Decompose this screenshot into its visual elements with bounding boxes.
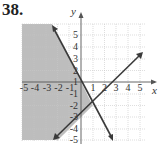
x-axis-label: x bbox=[151, 84, 157, 96]
svg-text:-2: -2 bbox=[54, 82, 62, 93]
y-axis-label: y bbox=[70, 5, 76, 17]
svg-text:1: 1 bbox=[73, 76, 78, 87]
svg-text:-1: -1 bbox=[70, 88, 78, 99]
svg-text:-3: -3 bbox=[43, 82, 51, 93]
y-axis-arrow-icon bbox=[79, 12, 84, 18]
graph: x y -5 -4 -3 -2 -1 1 2 3 4 5 5 4 3 2 1 -… bbox=[0, 0, 160, 148]
svg-text:4: 4 bbox=[73, 41, 78, 52]
svg-text:1: 1 bbox=[91, 82, 96, 93]
svg-text:3: 3 bbox=[114, 82, 119, 93]
svg-text:-4: -4 bbox=[31, 82, 39, 93]
svg-text:-5: -5 bbox=[70, 134, 78, 145]
svg-text:5: 5 bbox=[138, 82, 143, 93]
svg-text:-5: -5 bbox=[20, 82, 28, 93]
svg-text:3: 3 bbox=[73, 53, 78, 64]
svg-text:4: 4 bbox=[126, 82, 131, 93]
svg-text:-4: -4 bbox=[70, 123, 78, 134]
svg-text:-2: -2 bbox=[70, 100, 78, 111]
svg-text:5: 5 bbox=[73, 29, 78, 40]
